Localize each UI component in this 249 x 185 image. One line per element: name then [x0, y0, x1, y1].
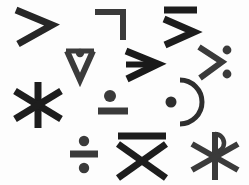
glyph-dot-above-bar — [96, 88, 132, 120]
glyph-division-sign — [68, 135, 100, 175]
glyph-greater-than-overbar — [161, 4, 205, 48]
glyph-not-sign — [93, 8, 129, 44]
glyph-vee-with-dot — [63, 46, 99, 84]
glyph-dot-with-paren — [160, 77, 204, 127]
symbol-sheet — [0, 0, 249, 185]
glyph-x-with-overbar — [115, 131, 171, 181]
glyph-chi-rho — [186, 128, 244, 184]
glyph-greater-than — [12, 6, 60, 48]
glyph-six-spoke-asterisk — [10, 80, 66, 130]
